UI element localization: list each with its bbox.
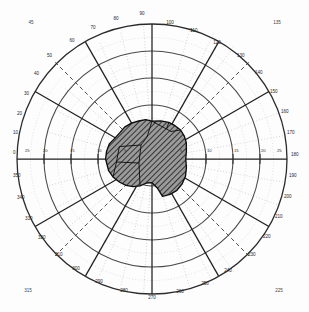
angle-label-170: 170 <box>287 130 295 135</box>
angle-label-290: 290 <box>95 279 103 284</box>
angle-label-310: 310 <box>55 252 63 257</box>
angle-label-160: 160 <box>281 109 289 114</box>
angle-label-90: 90 <box>139 11 145 16</box>
radial-label-right-10: 10 <box>207 148 212 153</box>
angle-label-190: 190 <box>289 173 297 178</box>
angle-label-40: 40 <box>34 71 40 76</box>
angle-label-320: 320 <box>38 235 46 240</box>
angle-label-330: 330 <box>25 216 33 221</box>
polar-plot-figure: 0 350 340 330 320 310 300 290 280 270 26… <box>0 0 309 312</box>
radial-label-right-15: 15 <box>234 148 239 153</box>
radial-label-right-25: 25 <box>277 148 282 153</box>
angle-label-10: 10 <box>13 130 19 135</box>
angle-label-70: 70 <box>90 25 96 30</box>
radial-label-left-10: 10 <box>97 148 102 153</box>
angle-label-120: 120 <box>213 40 221 45</box>
angle-label-220: 220 <box>263 234 271 239</box>
angle-label-150: 150 <box>270 89 278 94</box>
angle-label-45: 45 <box>28 20 34 25</box>
angle-label-60: 60 <box>69 38 75 43</box>
angle-label-20: 20 <box>17 111 23 116</box>
angle-label-200: 200 <box>284 194 292 199</box>
angle-label-30: 30 <box>24 91 30 96</box>
angle-label-210: 210 <box>275 214 283 219</box>
angle-label-250: 250 <box>201 281 209 286</box>
angle-label-350: 350 <box>13 173 21 178</box>
polar-plot-canvas: 0 350 340 330 320 310 300 290 280 270 26… <box>0 0 309 312</box>
angle-label-110: 110 <box>190 28 198 33</box>
angle-label-280: 280 <box>120 288 128 293</box>
angle-label-50: 50 <box>47 53 53 58</box>
angle-label-135: 135 <box>273 20 281 25</box>
angle-label-340: 340 <box>17 195 25 200</box>
angle-label-240: 240 <box>224 268 232 273</box>
radial-label-left-15: 15 <box>70 148 75 153</box>
angle-label-80: 80 <box>113 16 119 21</box>
angle-label-100: 100 <box>166 20 174 25</box>
angle-label-230: 230 <box>248 252 256 257</box>
radial-label-right-20: 20 <box>261 148 266 153</box>
angle-label-130: 130 <box>237 53 245 58</box>
angle-label-270: 270 <box>148 295 156 300</box>
angle-label-180: 180 <box>291 152 299 157</box>
radial-label-left-20: 20 <box>43 148 48 153</box>
angle-label-0: 0 <box>13 150 16 155</box>
angle-label-315: 315 <box>24 288 32 293</box>
angle-label-260: 260 <box>176 289 184 294</box>
angle-label-225: 225 <box>275 288 283 293</box>
angle-label-300: 300 <box>72 266 80 271</box>
radial-label-left-25: 25 <box>25 148 30 153</box>
angle-label-140: 140 <box>255 70 263 75</box>
